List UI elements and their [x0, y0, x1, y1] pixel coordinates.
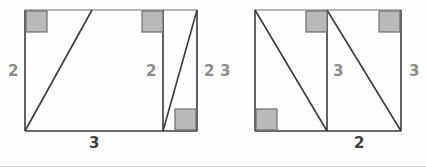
right-figure-bottom-base-label: 2 — [354, 136, 364, 151]
right-angle-marker-icon — [26, 11, 47, 32]
right-figure-right-side-label: 3 — [409, 64, 419, 79]
right-angle-marker-icon — [379, 11, 400, 32]
right-figure-inner-vertical-label: 3 — [333, 64, 343, 79]
bottom-divider — [0, 166, 426, 167]
left-figure-group — [25, 10, 197, 131]
right-figure-group — [255, 10, 401, 131]
left-figure-bottom-base-label: 3 — [89, 136, 99, 151]
left-figure-left-side-label: 2 — [8, 64, 18, 79]
left-figure-inner-vertical-label: 2 — [146, 64, 156, 79]
right-angle-marker-icon — [306, 11, 327, 32]
right-angle-marker-icon — [175, 109, 196, 130]
right-figure-left-side-label: 3 — [220, 64, 230, 79]
right-angle-marker-icon — [142, 11, 163, 32]
between-figures-left-label: 2 — [204, 64, 214, 79]
right-angle-marker-icon — [256, 109, 277, 130]
